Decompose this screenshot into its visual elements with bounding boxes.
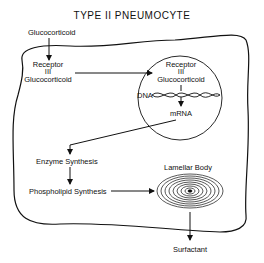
glucocorticoid-nucleus-label: Glucocorticoid [157,75,205,84]
surfactant-label: Surfactant [173,245,208,254]
mrna-label: mRNA [170,109,192,118]
diagram-title: TYPE II PNEUMOCYTE [74,10,191,21]
phospholipid-synthesis-label: Phospholipid Synthesis [29,187,107,196]
glucocorticoid-cyto-label: Glucocorticoid [24,75,72,84]
arrow-translation [70,120,176,154]
lamellar-body-label: Lamellar Body [164,163,212,172]
lamellar-body [157,174,223,208]
dna-helix [152,93,220,98]
glucocorticoid-outside-label: Glucocorticoid [28,28,76,37]
dna-label: DNA [137,91,153,100]
enzyme-synthesis-label: Enzyme Synthesis [36,157,98,166]
pneumocyte-diagram: TYPE II PNEUMOCYTE Glucocorticoid Recept… [0,0,264,263]
